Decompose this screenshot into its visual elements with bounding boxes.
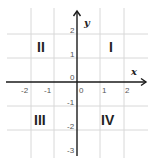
y-tick-label: 0 xyxy=(70,73,75,82)
x-tick-label: 0 xyxy=(79,86,84,95)
x-tick-labels: -2 -1 0 1 2 xyxy=(21,86,130,95)
x-tick-label: 1 xyxy=(102,86,107,95)
axes xyxy=(6,11,146,156)
quadrant-II-label: II xyxy=(37,39,45,55)
x-tick-label: 2 xyxy=(125,86,130,95)
y-axis-label: y xyxy=(83,17,91,28)
x-tick-label: -1 xyxy=(44,86,52,95)
y-tick-label: -1 xyxy=(67,98,75,107)
y-tick-labels: 2 1 0 -1 -2 -3 xyxy=(67,26,75,155)
x-axis-label: x xyxy=(130,66,138,77)
coordinate-plane: x y -2 -1 0 1 2 2 1 0 -1 -2 -3 I II III … xyxy=(0,0,154,164)
quadrant-III-label: III xyxy=(34,112,46,128)
quadrant-IV-label: IV xyxy=(101,112,115,128)
quadrant-I-label: I xyxy=(109,39,113,55)
y-tick-label: 1 xyxy=(70,50,75,59)
y-tick-label: 2 xyxy=(70,26,75,35)
y-tick-label: -2 xyxy=(67,122,75,131)
y-tick-label: -3 xyxy=(67,146,75,155)
x-tick-label: -2 xyxy=(21,86,29,95)
